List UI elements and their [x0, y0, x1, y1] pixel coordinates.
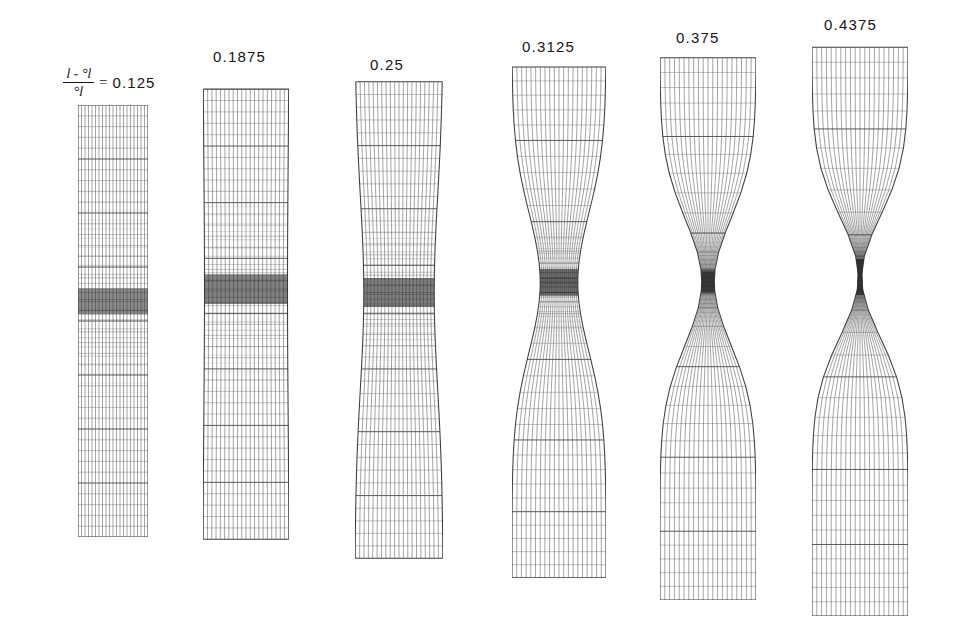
figure-root: l - °l°l=0.1250.18750.250.31250.3750.437… — [0, 0, 953, 624]
mesh-lines — [512, 67, 606, 578]
mesh-vertical-line — [703, 58, 707, 600]
specimen-strain-0375-mesh — [660, 56, 756, 600]
specimen-strain-0375 — [660, 56, 756, 600]
specimen-strain-01875 — [203, 88, 289, 540]
mesh-lines — [355, 82, 443, 558]
mesh-boundary-line — [203, 89, 204, 539]
mesh-vertical-line — [545, 67, 553, 578]
mesh-lines — [203, 89, 289, 539]
mesh-vertical-line — [517, 67, 542, 578]
caption-025: 0.25 — [370, 56, 404, 73]
mesh-vertical-line — [279, 89, 280, 539]
mesh-vertical-line — [665, 58, 703, 600]
mesh-vertical-line — [554, 67, 557, 578]
caption-0375: 0.375 — [676, 29, 720, 46]
specimen-strain-03125-mesh — [512, 64, 606, 578]
mesh-vertical-line — [860, 47, 865, 616]
mesh-vertical-line — [212, 89, 213, 539]
specimen-strain-01875-mesh — [203, 88, 289, 540]
mesh-vertical-line — [381, 82, 384, 558]
mesh-vertical-line — [216, 89, 217, 539]
mesh-vertical-line — [271, 89, 272, 539]
specimen-strain-03125 — [512, 64, 606, 578]
mesh-vertical-line — [410, 82, 413, 558]
mesh-boundary-line — [434, 82, 443, 558]
mesh-vertical-line — [406, 82, 408, 558]
mesh-lines — [78, 105, 148, 537]
specimen-strain-0125 — [78, 105, 148, 537]
mesh-vertical-line — [403, 82, 404, 558]
mesh-vertical-line — [263, 89, 264, 539]
mesh-vertical-line — [576, 67, 601, 578]
caption-01875: 0.1875 — [213, 48, 266, 65]
mesh-vertical-line — [283, 89, 284, 539]
mesh-vertical-line — [386, 82, 389, 558]
mesh-boundary-line — [288, 89, 289, 539]
mesh-vertical-line — [862, 47, 904, 616]
mesh-vertical-line — [395, 82, 396, 558]
mesh-vertical-line — [390, 82, 392, 558]
strain-fraction: l - °l°l — [62, 66, 94, 99]
caption-03125: 0.3125 — [522, 38, 575, 55]
mesh-vertical-line — [267, 89, 268, 539]
strain-numerator: l - °l — [63, 66, 95, 83]
mesh-vertical-line — [275, 89, 276, 539]
mesh-vertical-line — [565, 67, 573, 578]
strain-denominator: °l — [70, 83, 86, 99]
equals-sign: = — [99, 74, 107, 91]
specimen-strain-04375-mesh — [812, 46, 908, 616]
strain-formula-caption: l - °l°l=0.125 — [63, 66, 156, 99]
mesh-boundary-line — [355, 82, 364, 558]
mesh-vertical-line — [207, 89, 208, 539]
mesh-vertical-line — [817, 47, 859, 616]
mesh-vertical-line — [561, 67, 564, 578]
specimen-strain-025-mesh — [355, 78, 443, 560]
mesh-vertical-line — [709, 58, 713, 600]
mesh-vertical-line — [855, 47, 860, 616]
mesh-vertical-line — [364, 82, 371, 558]
mesh-vertical-line — [225, 89, 226, 539]
mesh-lines — [812, 47, 908, 616]
mesh-vertical-line — [427, 82, 434, 558]
mesh-vertical-line — [714, 58, 752, 600]
caption-value-0125: 0.125 — [113, 74, 156, 91]
specimen-strain-025 — [355, 78, 443, 560]
mesh-lines — [660, 58, 756, 600]
mesh-vertical-line — [229, 89, 230, 539]
mesh-vertical-line — [373, 82, 378, 558]
mesh-vertical-line — [220, 89, 221, 539]
mesh-vertical-line — [420, 82, 425, 558]
mesh-vertical-line — [413, 82, 416, 558]
caption-04375: 0.4375 — [824, 16, 877, 33]
specimen-strain-0125-mesh — [78, 105, 148, 537]
specimen-strain-04375 — [812, 46, 908, 616]
